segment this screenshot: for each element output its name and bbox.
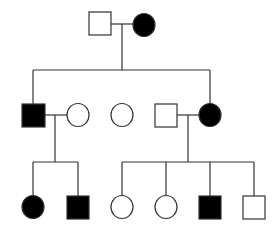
female-unaffected-III-3: [111, 196, 133, 219]
female-affected-I-2: [133, 14, 155, 37]
male-affected-III-5: [199, 196, 221, 219]
female-affected-II-5: [199, 104, 221, 127]
male-unaffected-II-4: [155, 104, 177, 127]
male-unaffected-III-6: [243, 196, 265, 219]
female-affected-III-1: [22, 196, 44, 219]
pedigree-chart: [0, 0, 279, 228]
female-unaffected-II-2: [67, 104, 89, 127]
male-affected-III-2: [67, 196, 89, 219]
connector-lines: [33, 24, 254, 196]
female-unaffected-II-3: [111, 104, 133, 127]
female-unaffected-III-4: [155, 196, 177, 219]
male-unaffected-I-1: [89, 12, 111, 35]
male-affected-II-1: [22, 104, 45, 127]
